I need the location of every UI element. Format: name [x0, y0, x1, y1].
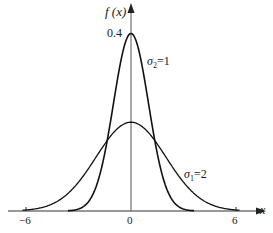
- normal-distribution-chart: [0, 0, 273, 233]
- peak-value-label: 0.4: [107, 26, 122, 41]
- y-axis-arrow-icon: [128, 3, 135, 13]
- x-axis-label: x: [260, 203, 265, 218]
- tick-label-6: 6: [232, 214, 238, 226]
- tick-label-0: 0: [127, 214, 133, 226]
- y-axis-label: f (x): [105, 4, 126, 20]
- sigma1-annotation: σ1=2: [184, 167, 207, 183]
- sigma2-annotation: σ2=1: [147, 54, 170, 70]
- tick-label-neg6: −6: [19, 214, 31, 226]
